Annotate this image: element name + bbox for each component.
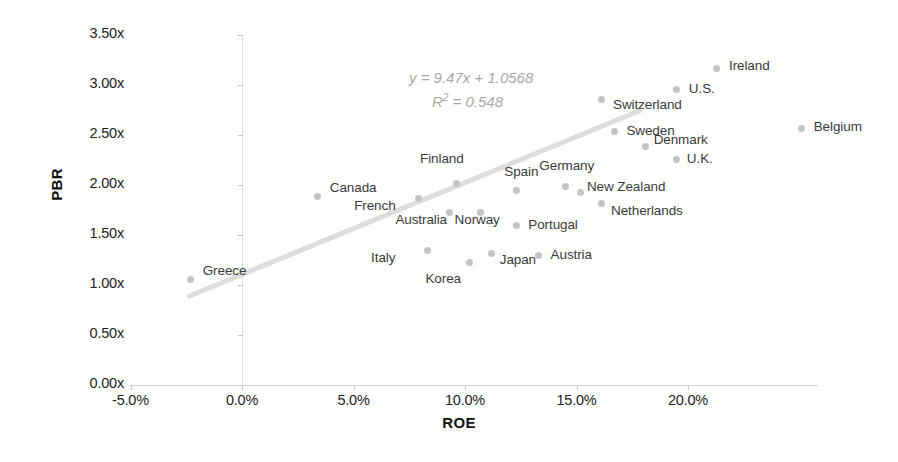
data-point-marker[interactable] [673, 86, 680, 93]
scatter-chart: 0.00x0.50x1.00x1.50x2.00x2.50x3.00x3.50x… [0, 0, 898, 462]
y-tick-label: 0.50x [52, 325, 124, 341]
x-tick-label: 5.0% [309, 392, 399, 408]
y-axis-title: PBR [48, 125, 65, 245]
data-point-label: Netherlands [611, 203, 683, 218]
data-point-label: Germany [539, 158, 594, 173]
regression-equation: y = 9.47x + 1.0568 [409, 69, 533, 86]
data-point-label: Belgium [814, 119, 862, 134]
data-point-marker[interactable] [611, 128, 618, 135]
y-tick-mark [238, 185, 243, 186]
y-tick-mark [238, 235, 243, 236]
data-point-label: Italy [371, 250, 395, 265]
data-point-marker[interactable] [424, 247, 431, 254]
data-point-label: Greece [203, 263, 247, 278]
x-tick-mark [131, 385, 132, 390]
data-point-marker[interactable] [642, 143, 649, 150]
data-point-label: Portugal [528, 217, 577, 232]
data-point-label: Spain [504, 164, 538, 179]
data-point-marker[interactable] [415, 195, 422, 202]
y-tick-mark [238, 285, 243, 286]
data-point-marker[interactable] [314, 193, 321, 200]
data-point-label: French [354, 198, 395, 213]
r-squared-annotation: R2 = 0.548 [432, 92, 503, 110]
y-tick-mark [238, 85, 243, 86]
x-tick-label: 10.0% [420, 392, 510, 408]
data-point-label: U.S. [689, 81, 715, 96]
x-tick-mark [577, 385, 578, 390]
data-point-marker[interactable] [488, 250, 495, 257]
x-tick-mark [688, 385, 689, 390]
y-tick-label: 1.00x [52, 275, 124, 291]
x-tick-label: 15.0% [532, 392, 622, 408]
x-tick-mark [242, 385, 243, 390]
data-point-label: New Zealand [587, 179, 665, 194]
y-tick-mark [238, 335, 243, 336]
y-tick-label: 0.00x [52, 375, 124, 391]
y-tick-label: 3.00x [52, 75, 124, 91]
x-tick-label: 20.0% [643, 392, 733, 408]
r-squared-value: = 0.548 [448, 93, 503, 110]
y-axis-line [242, 35, 243, 385]
data-point-label: Korea [425, 271, 461, 286]
data-point-label: Austria [551, 247, 592, 262]
data-point-label: Switzerland [613, 97, 682, 112]
data-point-label: U.K. [687, 151, 713, 166]
data-point-marker[interactable] [513, 187, 520, 194]
x-tick-mark [354, 385, 355, 390]
data-point-marker[interactable] [562, 183, 569, 190]
data-point-label: Norway [455, 212, 500, 227]
data-point-label: Finland [420, 151, 464, 166]
data-point-marker[interactable] [713, 65, 720, 72]
data-point-marker[interactable] [598, 96, 605, 103]
data-point-label: Ireland [729, 58, 770, 73]
x-tick-label: -5.0% [86, 392, 176, 408]
x-tick-mark [465, 385, 466, 390]
y-tick-label: 3.50x [52, 25, 124, 41]
data-point-marker[interactable] [187, 276, 194, 283]
data-point-label: Australia [395, 212, 447, 227]
data-point-marker[interactable] [598, 200, 605, 207]
data-point-marker[interactable] [798, 125, 805, 132]
data-point-marker[interactable] [673, 156, 680, 163]
r-squared-label: R [432, 93, 443, 110]
y-tick-mark [238, 135, 243, 136]
data-point-marker[interactable] [513, 222, 520, 229]
data-point-marker[interactable] [577, 189, 584, 196]
data-point-label: Japan [500, 252, 536, 267]
data-point-label: Denmark [654, 132, 708, 147]
x-axis-title: ROE [399, 414, 519, 431]
y-tick-mark [238, 35, 243, 36]
x-axis-line [130, 385, 818, 386]
data-point-marker[interactable] [466, 259, 473, 266]
x-tick-label: 0.0% [197, 392, 287, 408]
data-point-marker[interactable] [453, 180, 460, 187]
data-point-marker[interactable] [535, 252, 542, 259]
data-point-label: Canada [330, 180, 377, 195]
